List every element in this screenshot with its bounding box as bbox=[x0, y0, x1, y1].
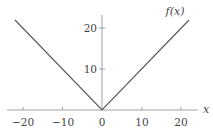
x-tick-label: 20 bbox=[174, 116, 187, 128]
y-tick-label: 10 bbox=[84, 63, 97, 75]
x-axis-label: x bbox=[203, 103, 210, 116]
x-tick-label: 0 bbox=[99, 116, 106, 128]
y-tick-label: 20 bbox=[84, 22, 97, 34]
x-tick-label: −10 bbox=[52, 116, 74, 128]
x-tick-label: 10 bbox=[135, 116, 148, 128]
abs-value-chart: −20 −10 0 10 20 10 20 x f(x) bbox=[0, 0, 213, 138]
function-label: f(x) bbox=[165, 5, 185, 18]
x-tick-label: −20 bbox=[12, 116, 34, 128]
